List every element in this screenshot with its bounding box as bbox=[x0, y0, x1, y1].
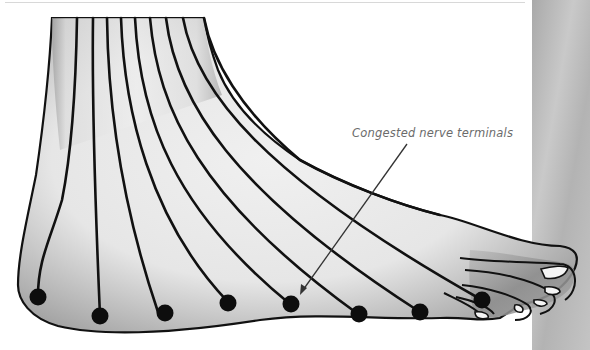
terminal-dot-7 bbox=[412, 304, 429, 321]
foot-drawing bbox=[0, 0, 590, 350]
terminal-dot-8 bbox=[474, 292, 491, 309]
terminal-dot-6 bbox=[351, 306, 368, 323]
foot-illustration-figure: Congested nerve terminals bbox=[0, 0, 590, 350]
terminal-dot-3 bbox=[157, 305, 174, 322]
callout-label: Congested nerve terminals bbox=[352, 126, 513, 140]
terminal-dot-2 bbox=[92, 308, 109, 325]
terminal-dot-1 bbox=[30, 289, 47, 306]
terminal-dot-4 bbox=[220, 295, 237, 312]
terminal-dot-5 bbox=[283, 296, 300, 313]
